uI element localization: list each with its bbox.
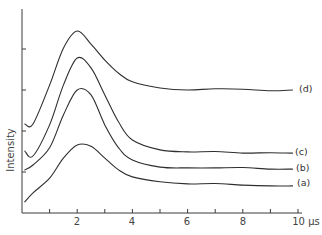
- chart-plot-area: [0, 0, 322, 235]
- series-label-b: (b): [296, 162, 309, 173]
- x-tick-label-6: 6: [184, 216, 190, 227]
- curves: [25, 31, 293, 202]
- x-tick-label-4: 4: [129, 216, 135, 227]
- x-tick-label-2: 2: [74, 216, 80, 227]
- x-tick-label-10: 10 μs: [292, 216, 319, 227]
- curve-c: [25, 57, 293, 157]
- x-axis-ticks: [50, 209, 298, 213]
- series-label-d: (d): [299, 83, 312, 94]
- series-label-c: (c): [295, 146, 308, 157]
- series-label-a: (a): [297, 177, 310, 188]
- y-axis-ticks: [22, 49, 26, 172]
- x-tick-label-8: 8: [240, 216, 246, 227]
- curve-b: [25, 89, 293, 170]
- y-axis-label: Intensity: [5, 128, 16, 172]
